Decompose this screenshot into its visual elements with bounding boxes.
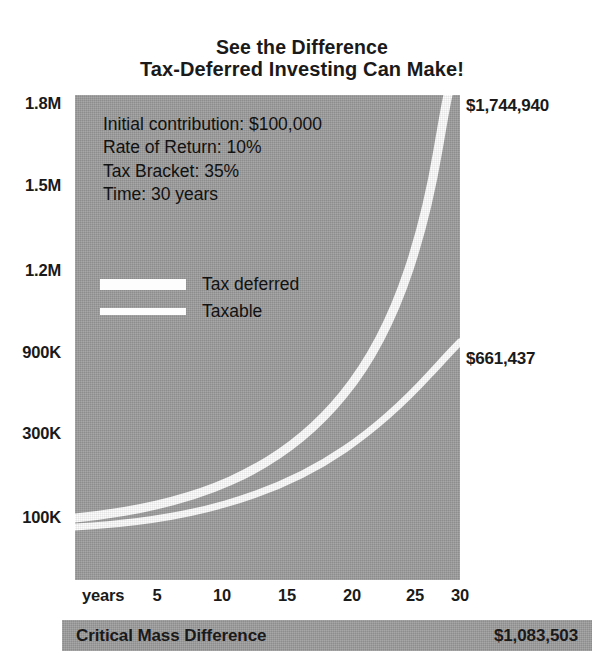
x-tick-30: 30 — [451, 586, 469, 605]
chart-legend: Tax deferred Taxable — [100, 271, 299, 325]
assumptions-block: Initial contribution: $100,000 Rate of R… — [103, 113, 322, 206]
summary-label: Critical Mass Difference — [76, 626, 266, 646]
y-tick-300k: 300K — [0, 424, 61, 443]
y-tick-1-5m: 1.5M — [0, 176, 61, 195]
assumption-initial-contribution: Initial contribution: $100,000 — [103, 113, 322, 136]
y-tick-900k: 900K — [0, 343, 61, 362]
x-tick-15: 15 — [278, 586, 296, 605]
y-tick-100k: 100K — [0, 508, 61, 527]
callout-tax-deferred-final: $1,744,940 — [466, 96, 549, 116]
x-tick-25: 25 — [406, 586, 424, 605]
y-tick-1-2m: 1.2M — [0, 261, 61, 280]
legend-label-tax-deferred: Tax deferred — [202, 274, 299, 295]
legend-swatch-taxable — [100, 308, 186, 315]
assumption-rate-of-return: Rate of Return: 10% — [103, 136, 322, 159]
legend-label-taxable: Taxable — [202, 301, 262, 322]
summary-bar: Critical Mass Difference $1,083,503 — [62, 620, 592, 651]
legend-item-tax-deferred: Tax deferred — [100, 271, 299, 298]
x-tick-20: 20 — [343, 586, 361, 605]
x-tick-5: 5 — [153, 586, 162, 605]
x-axis: years 5 10 15 20 25 30 — [0, 586, 604, 608]
assumption-tax-bracket: Tax Bracket: 35% — [103, 160, 322, 183]
title-line-1: See the Difference — [0, 36, 604, 58]
x-tick-10: 10 — [213, 586, 231, 605]
chart-plot-area: Initial contribution: $100,000 Rate of R… — [75, 95, 460, 580]
callout-taxable-final: $661,437 — [466, 349, 535, 369]
legend-swatch-tax-deferred — [100, 279, 186, 290]
title-line-2: Tax-Deferred Investing Can Make! — [0, 58, 604, 81]
summary-value: $1,083,503 — [494, 626, 578, 646]
y-tick-1-8m: 1.8M — [0, 94, 61, 113]
legend-item-taxable: Taxable — [100, 298, 299, 325]
x-axis-name: years — [82, 586, 124, 605]
page-title: See the Difference Tax-Deferred Investin… — [0, 36, 604, 81]
curve-taxable — [75, 342, 460, 527]
assumption-time: Time: 30 years — [103, 183, 322, 206]
